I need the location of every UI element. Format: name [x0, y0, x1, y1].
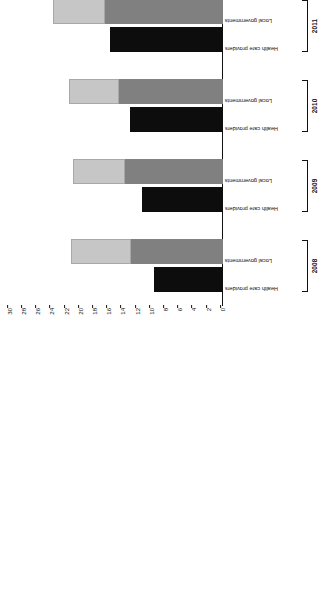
- chart-figure: 024681012141618202224262830 Health care …: [0, 0, 328, 328]
- category-group-2009: Health care providersLocal governments: [225, 146, 303, 226]
- category-label-local-governments: Local governments: [225, 80, 293, 105]
- category-label-local-governments: Local governments: [225, 240, 293, 265]
- bar-segment: [69, 80, 119, 105]
- value-axis-tick-label: 0: [220, 308, 226, 311]
- category-label-health-care-providers: Health care providers: [225, 108, 293, 133]
- bar-segment: [131, 240, 223, 265]
- year-label: 2009: [311, 179, 318, 194]
- value-axis-tick-mark: [7, 305, 8, 308]
- bar-group-2009: [10, 146, 223, 226]
- bar[interactable]: [154, 268, 223, 293]
- bar-segment: [130, 108, 223, 133]
- value-axis-tick-label: 22: [64, 308, 70, 315]
- year-bracket-icon: [302, 80, 308, 132]
- bar[interactable]: [130, 108, 223, 133]
- bar-segment: [105, 0, 223, 25]
- value-axis-tick-label: 6: [177, 308, 183, 311]
- bar-segment: [142, 188, 223, 213]
- category-group-2011: Health care providersLocal governments: [225, 0, 303, 66]
- category-label-local-governments: Local governments: [225, 0, 293, 25]
- bar[interactable]: [71, 240, 223, 265]
- value-axis-tick-label: 14: [121, 308, 127, 315]
- value-axis-tick-label: 18: [92, 308, 98, 315]
- category-label-health-care-providers: Health care providers: [225, 268, 293, 293]
- year-cell-2008: 2008: [302, 226, 328, 306]
- year-bracket-icon: [302, 160, 308, 212]
- year-label: 2010: [311, 99, 318, 114]
- bar-group-2010: [10, 66, 223, 146]
- bar-groups: [10, 0, 223, 306]
- value-axis-tick-label: 20: [78, 308, 84, 315]
- bar[interactable]: [142, 188, 223, 213]
- value-axis-tick-label: 24: [50, 308, 56, 315]
- category-labels: Health care providersLocal governmentsHe…: [225, 0, 303, 306]
- year-cell-2011: 2011: [302, 0, 328, 66]
- category-group-2008: Health care providersLocal governments: [225, 226, 303, 306]
- category-label-health-care-providers: Health care providers: [225, 28, 293, 53]
- bar-segment: [73, 160, 126, 185]
- year-brackets: 20082009201020112012: [302, 0, 328, 306]
- category-label-health-care-providers: Health care providers: [225, 188, 293, 213]
- year-bracket-icon: [302, 0, 308, 52]
- value-axis-ticks: 024681012141618202224262830: [10, 306, 223, 328]
- value-axis-tick-label: 4: [192, 308, 198, 311]
- value-axis-tick-label: 10: [149, 308, 155, 315]
- value-axis-tick-label: 2: [206, 308, 212, 311]
- bar[interactable]: [53, 0, 223, 25]
- bar-group-2011: [10, 0, 223, 66]
- year-cell-2009: 2009: [302, 146, 328, 226]
- bar-segment: [71, 240, 131, 265]
- value-axis-tick-label: 12: [135, 308, 141, 315]
- bar-segment: [125, 160, 223, 185]
- bar[interactable]: [73, 160, 224, 185]
- bar-segment: [110, 28, 223, 53]
- value-axis-tick-label: 8: [163, 308, 169, 311]
- category-label-local-governments: Local governments: [225, 160, 293, 185]
- bar[interactable]: [69, 80, 223, 105]
- year-bracket-icon: [302, 240, 308, 292]
- plot-area: 024681012141618202224262830: [10, 0, 223, 306]
- value-axis-tick-label: 26: [35, 308, 41, 315]
- value-axis-tick-label: 28: [21, 308, 27, 315]
- bar-segment: [154, 268, 223, 293]
- value-axis-tick-label: 30: [7, 308, 13, 315]
- year-label: 2011: [311, 19, 318, 33]
- value-axis-tick-label: 16: [106, 308, 112, 315]
- bar-group-2008: [10, 226, 223, 306]
- bar[interactable]: [110, 28, 223, 53]
- year-cell-2010: 2010: [302, 66, 328, 146]
- bar-segment: [119, 80, 223, 105]
- rotated-figure-container: 024681012141618202224262830 Health care …: [0, 0, 328, 328]
- category-group-2010: Health care providersLocal governments: [225, 66, 303, 146]
- year-label: 2008: [311, 259, 318, 274]
- bar-segment: [53, 0, 106, 25]
